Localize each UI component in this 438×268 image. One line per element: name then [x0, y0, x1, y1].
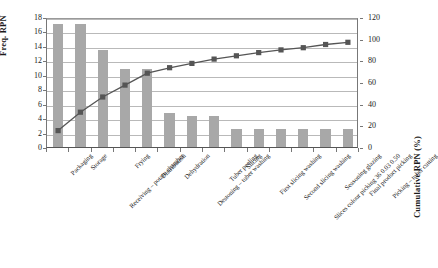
x-axis-category-label: Frying: [133, 152, 150, 169]
y-axis-right-tick-mark: [360, 126, 363, 127]
y-axis-right-ticks: 120100806040200: [360, 18, 394, 148]
y-axis-left-tick-label: 16: [18, 28, 42, 36]
y-axis-left-tick-label: 2: [18, 130, 42, 138]
plot-area: [46, 18, 358, 148]
line-marker: [323, 42, 328, 47]
y-axis-right-tick-label: 120: [368, 14, 394, 22]
y-axis-right-tick-label: 0: [368, 144, 394, 152]
line-marker: [122, 83, 127, 88]
y-axis-left-tick-label: 6: [18, 101, 42, 109]
line-marker: [212, 57, 217, 62]
y-axis-right-tick-label: 60: [368, 79, 394, 87]
y-axis-left-tick-label: 10: [18, 72, 42, 80]
y-axis-left-tick-label: 4: [18, 115, 42, 123]
line-marker: [256, 50, 261, 55]
y-axis-left-tick-label: 18: [18, 14, 42, 22]
line-marker: [145, 71, 150, 76]
y-axis-left-ticks: 181614121086420: [14, 18, 42, 148]
x-axis-category-labels: PackagingStorageReceiving – potato chamb…: [46, 152, 358, 264]
x-axis-category-label: Destoning – tuber washing: [216, 152, 271, 207]
cumulative-line-series: [47, 19, 359, 149]
line-marker: [78, 110, 83, 115]
line-marker: [189, 61, 194, 66]
line-marker: [278, 47, 283, 52]
y-axis-right-tick-mark: [360, 18, 363, 19]
y-axis-right-tick-label: 40: [368, 101, 394, 109]
y-axis-left-tick-label: 0: [18, 144, 42, 152]
line-marker: [234, 53, 239, 58]
line-marker: [301, 45, 306, 50]
y-axis-right-tick-mark: [360, 61, 363, 62]
y-axis-right-tick-label: 80: [368, 57, 394, 65]
y-axis-right-tick-mark: [360, 40, 363, 41]
y-axis-left-tick-label: 8: [18, 86, 42, 94]
line-marker: [100, 94, 105, 99]
y-axis-right-tick-mark: [360, 148, 363, 149]
y-axis-right-tick-label: 100: [368, 36, 394, 44]
cumulative-line: [58, 42, 348, 130]
line-marker: [345, 40, 350, 45]
y-axis-right-tick-label: 20: [368, 122, 394, 130]
y-axis-right-tick-mark: [360, 105, 363, 106]
line-marker: [167, 65, 172, 70]
x-axis-tick-mark: [358, 148, 359, 152]
line-marker: [56, 128, 61, 133]
y-axis-left-tick-label: 12: [18, 57, 42, 65]
y-axis-left-title: Freq. RPN: [0, 15, 8, 56]
y-axis-left-tick-label: 14: [18, 43, 42, 51]
y-axis-right-tick-mark: [360, 83, 363, 84]
